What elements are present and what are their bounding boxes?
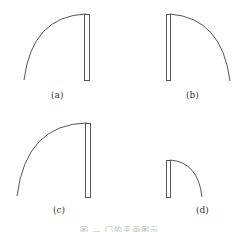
panel-d <box>167 160 203 198</box>
panel-label-a: (a) <box>51 90 63 100</box>
door-leaf-b <box>167 15 171 81</box>
panel-b <box>167 14 231 81</box>
panel-c <box>17 123 91 198</box>
door-leaf-d <box>167 161 171 198</box>
door-leaf-c <box>86 124 91 198</box>
swing-arc-d <box>170 160 202 197</box>
panel-a <box>24 14 90 81</box>
panel-label-b: (b) <box>186 90 199 100</box>
swing-arc-a <box>24 14 86 80</box>
panel-label-c: (c) <box>53 205 65 215</box>
door-leaf-a <box>85 15 90 81</box>
swing-arc-c <box>17 123 87 196</box>
door-swing-diagram <box>0 0 240 232</box>
panel-label-d: (d) <box>196 205 209 215</box>
swing-arc-b <box>170 14 230 81</box>
figure-caption: 图 — 门的平面图示 <box>80 224 170 232</box>
